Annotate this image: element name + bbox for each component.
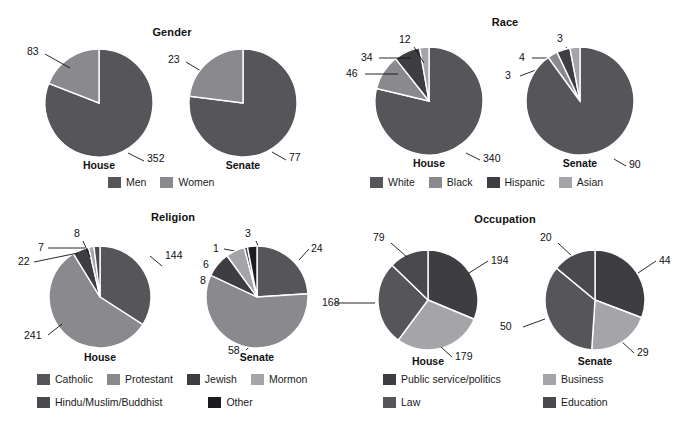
legend-row: Public service/politics Business [383, 374, 673, 385]
pie-gender-senate [188, 48, 298, 158]
legend-item-asian[interactable]: Asian [559, 177, 603, 188]
legend-item-education[interactable]: Education [543, 397, 608, 408]
pie-occupation-senate-svg [544, 249, 646, 351]
legend-label-protestant: Protestant [125, 374, 173, 385]
value-race-house-black: 46 [346, 67, 358, 79]
legend-item-jewish[interactable]: Jewish [187, 374, 237, 385]
legend-row: Law Education [383, 397, 673, 408]
legend-label-hindu-muslim-buddhist: Hindu/Muslim/Buddhist [55, 397, 162, 408]
value-religion-house-hindu: 7 [38, 241, 44, 253]
value-race-senate-hispanic: 4 [519, 51, 525, 63]
legend-row: Men Women [108, 177, 228, 188]
legend-item-mormon[interactable]: Mormon [251, 374, 308, 385]
value-race-senate-black: 3 [505, 69, 511, 81]
legend-item-public-service-politics[interactable]: Public service/politics [383, 374, 543, 385]
legend-item-hispanic[interactable]: Hispanic [487, 177, 545, 188]
value-race-house-white: 340 [483, 152, 501, 164]
legend-swatch-law [383, 397, 396, 408]
legend-label-men: Men [126, 177, 146, 188]
pie-caption-gender-senate: Senate [203, 159, 283, 171]
legend-label-women: Women [178, 177, 214, 188]
leader-lines-race [345, 0, 689, 205]
legend-item-men[interactable]: Men [108, 177, 146, 188]
legend-swatch-hispanic [487, 177, 500, 188]
legend-label-jewish: Jewish [205, 374, 237, 385]
legend-swatch-mormon [251, 374, 264, 385]
legend-religion: Catholic Protestant Jewish Mormon Hindu/… [37, 374, 342, 408]
value-occupation-senate-business: 29 [637, 346, 649, 358]
legend-label-other: Other [226, 397, 252, 408]
value-race-house-asian: 12 [399, 33, 411, 45]
value-occupation-senate-education: 50 [500, 320, 512, 332]
value-religion-house-protestant: 241 [24, 329, 42, 341]
value-gender-senate-women: 23 [168, 53, 180, 65]
pie-gender-senate-svg [188, 48, 298, 158]
value-religion-senate-protestant: 58 [228, 344, 240, 356]
legend-row: White Black Hispanic Asian [370, 177, 617, 188]
legend-swatch-hindu-muslim-buddhist [37, 397, 50, 408]
value-occupation-house-business: 179 [455, 350, 473, 362]
legend-swatch-white [370, 177, 383, 188]
legend-swatch-protestant [107, 374, 120, 385]
legend-swatch-public-service-politics [383, 374, 396, 385]
legend-swatch-jewish [187, 374, 200, 385]
legend-item-women[interactable]: Women [160, 177, 214, 188]
panel-gender: Gender House 83 352 Senate 23 77 Men Wom… [0, 0, 345, 205]
pie-race-senate [525, 46, 635, 156]
legend-item-business[interactable]: Business [543, 374, 604, 385]
pie-occupation-senate [544, 249, 646, 351]
legend-label-business: Business [561, 374, 604, 385]
value-occupation-house-education: 168 [322, 296, 340, 308]
legend-label-white: White [388, 177, 415, 188]
legend-label-hispanic: Hispanic [505, 177, 545, 188]
value-religion-senate-hindu: 1 [213, 242, 219, 254]
value-religion-senate-other: 3 [245, 227, 251, 239]
value-occupation-senate-law: 20 [540, 231, 552, 243]
legend-item-catholic[interactable]: Catholic [37, 374, 93, 385]
value-occupation-house-public-service: 194 [491, 254, 509, 266]
legend-race: White Black Hispanic Asian [370, 177, 617, 188]
legend-swatch-women [160, 177, 173, 188]
pie-religion-senate-svg [205, 245, 309, 349]
legend-occupation: Public service/politics Business Law Edu… [383, 374, 673, 408]
value-race-senate-white: 90 [629, 158, 641, 170]
legend-swatch-education [543, 397, 556, 408]
legend-label-asian: Asian [577, 177, 603, 188]
legend-item-white[interactable]: White [370, 177, 415, 188]
legend-swatch-black [429, 177, 442, 188]
legend-item-law[interactable]: Law [383, 397, 543, 408]
pie-caption-race-senate: Senate [540, 157, 620, 169]
pie-religion-senate [205, 245, 309, 349]
legend-swatch-business [543, 374, 556, 385]
legend-item-black[interactable]: Black [429, 177, 473, 188]
panel-race: Race House 12 34 46 340 Senate 3 4 3 90 … [345, 0, 689, 205]
value-religion-senate-jewish: 8 [200, 274, 206, 286]
pie-caption-occupation-senate: Senate [555, 355, 635, 367]
legend-gender: Men Women [108, 177, 228, 188]
pie-race-senate-svg [525, 46, 635, 156]
value-religion-senate-mormon: 6 [203, 258, 209, 270]
legend-item-hindu-muslim-buddhist[interactable]: Hindu/Muslim/Buddhist [37, 397, 162, 408]
value-occupation-house-law: 79 [373, 231, 385, 243]
legend-item-other[interactable]: Other [208, 397, 252, 408]
value-religion-senate-catholic: 24 [311, 242, 323, 254]
value-religion-house-catholic: 144 [165, 249, 183, 261]
pie-slice [257, 246, 308, 297]
legend-item-protestant[interactable]: Protestant [107, 374, 173, 385]
legend-row: Catholic Protestant Jewish Mormon [37, 374, 342, 385]
value-religion-house-jewish: 22 [18, 255, 30, 267]
value-religion-house-mormon: 8 [74, 227, 80, 239]
legend-label-catholic: Catholic [55, 374, 93, 385]
value-occupation-senate-public-service: 44 [659, 254, 671, 266]
legend-label-education: Education [561, 397, 608, 408]
panel-religion: Religion House 8 7 22 144 241 Senate 3 1… [0, 205, 345, 436]
legend-label-black: Black [447, 177, 473, 188]
value-race-senate-asian: 3 [557, 32, 563, 44]
legend-label-public-service-politics: Public service/politics [401, 374, 501, 385]
value-gender-senate-men: 77 [289, 151, 301, 163]
legend-swatch-men [108, 177, 121, 188]
value-gender-house-men: 352 [147, 152, 165, 164]
pie-slice [189, 49, 243, 103]
panel-occupation: Occupation House 79 194 168 179 Senate 2… [345, 205, 689, 436]
value-gender-house-women: 83 [27, 45, 39, 57]
